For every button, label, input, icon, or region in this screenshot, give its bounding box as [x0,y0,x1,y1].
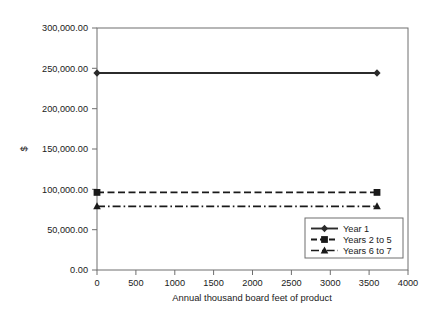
chart-legend: Year 1 Years 2 to 5 Years 6 to 7 [305,218,403,258]
legend-marker-square [321,236,328,243]
x-tick-label: 3000 [320,278,340,288]
x-tick-label: 1000 [165,278,185,288]
x-tick-label: 1500 [203,278,223,288]
y-tick-label: 150,000.00 [42,144,88,154]
x-axis-tick-labels: 0 500 1000 1500 2000 2500 3000 3500 4000 [94,278,418,288]
x-tick-label: 500 [128,278,143,288]
y-tick-label: 300,000.00 [42,23,88,33]
series-marker-square [94,189,101,196]
line-chart: 0.00 50,000.00 100,000.00 150,000.00 200… [0,0,441,313]
x-tick-label: 2500 [281,278,301,288]
legend-label: Year 1 [343,224,369,234]
series-marker-square [374,189,381,196]
y-tick-label: 0.00 [70,265,88,275]
y-axis-title: $ [18,146,29,152]
chart-figure: 0.00 50,000.00 100,000.00 150,000.00 200… [0,0,441,313]
x-tick-label: 3500 [359,278,379,288]
x-tick-label: 2000 [242,278,262,288]
y-tick-label: 50,000.00 [47,225,88,235]
x-tick-label: 0 [94,278,99,288]
legend-label: Years 6 to 7 [343,246,392,256]
x-tick-label: 4000 [398,278,418,288]
y-tick-label: 200,000.00 [42,104,88,114]
x-axis-title: Annual thousand board feet of product [172,292,332,303]
y-tick-label: 100,000.00 [42,185,88,195]
y-tick-label: 250,000.00 [42,64,88,74]
legend-label: Years 2 to 5 [343,235,392,245]
